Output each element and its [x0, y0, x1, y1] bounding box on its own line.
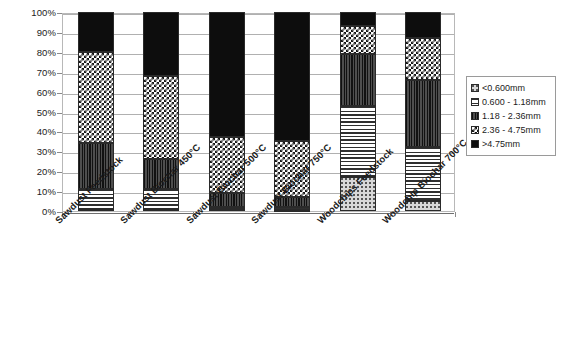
y-tick-label-50: 50% [6, 108, 56, 118]
bar-segment[interactable] [78, 209, 114, 211]
bar-segment[interactable] [209, 209, 245, 211]
bar-segment[interactable] [274, 12, 310, 141]
y-tick-label-30: 30% [6, 147, 56, 157]
gridline-50 [63, 114, 454, 115]
legend-item[interactable]: >4.75mm [471, 137, 551, 150]
legend-label: 0.600 - 1.18mm [482, 97, 546, 107]
bar-segment[interactable] [143, 76, 179, 160]
legend-swatch-icon [471, 112, 479, 120]
bar-segment[interactable] [78, 52, 114, 144]
plot-area [62, 13, 455, 212]
bar-segment[interactable] [209, 12, 245, 137]
legend-label: 1.18 - 2.36mm [482, 111, 541, 121]
x-tick-mark-6 [455, 212, 456, 217]
bar-segment[interactable] [405, 12, 441, 38]
y-tick-label-100: 100% [6, 8, 56, 18]
legend-swatch-icon [471, 84, 479, 92]
gridline-100 [63, 14, 454, 15]
stacked-bar-chart: 0%10%20%30%40%50%60%70%80%90%100% Sawdus… [0, 0, 580, 351]
legend-item[interactable]: <0.600mm [471, 81, 551, 94]
gridline-80 [63, 54, 454, 55]
bar-segment[interactable] [274, 210, 310, 212]
chart-legend: <0.600mm0.600 - 1.18mm1.18 - 2.36mm2.36 … [466, 76, 556, 156]
y-tick-label-90: 90% [6, 28, 56, 38]
gridline-90 [63, 34, 454, 35]
bar-segment[interactable] [143, 12, 179, 76]
legend-swatch-icon [471, 98, 479, 106]
legend-swatch-icon [471, 126, 479, 134]
gridline-10 [63, 193, 454, 194]
bar-segment[interactable] [405, 38, 441, 80]
bar-segment[interactable] [78, 12, 114, 52]
y-tick-label-60: 60% [6, 88, 56, 98]
bar-segment[interactable] [405, 80, 441, 148]
bar-segment[interactable] [143, 209, 179, 211]
bar-segment[interactable] [209, 207, 245, 209]
y-tick-label-10: 10% [6, 187, 56, 197]
y-tick-label-0: 0% [6, 207, 56, 217]
y-tick-label-80: 80% [6, 48, 56, 58]
bar-segment[interactable] [340, 26, 376, 54]
legend-item[interactable]: 0.600 - 1.18mm [471, 95, 551, 108]
legend-item[interactable]: 1.18 - 2.36mm [471, 109, 551, 122]
y-tick-label-20: 20% [6, 167, 56, 177]
legend-label: <0.600mm [482, 83, 525, 93]
gridline-20 [63, 173, 454, 174]
legend-swatch-icon [471, 140, 479, 148]
y-tick-label-40: 40% [6, 127, 56, 137]
bar-segment[interactable] [340, 54, 376, 106]
legend-item[interactable]: 2.36 - 4.75mm [471, 123, 551, 136]
legend-label: 2.36 - 4.75mm [482, 125, 541, 135]
gridline-40 [63, 133, 454, 134]
bar-segment[interactable] [340, 12, 376, 26]
y-tick-label-70: 70% [6, 68, 56, 78]
bar-segment[interactable] [274, 207, 310, 210]
legend-label: >4.75mm [482, 139, 520, 149]
gridline-70 [63, 74, 454, 75]
gridline-60 [63, 94, 454, 95]
